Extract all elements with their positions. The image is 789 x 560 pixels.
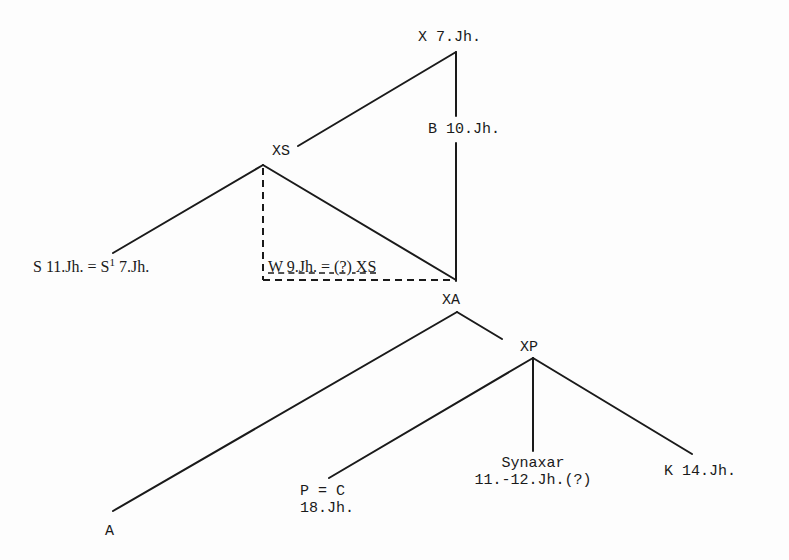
node-k: K 14.Jh.: [664, 463, 736, 480]
node-p-label: P = C: [300, 483, 354, 500]
stemma-diagram: X 7.Jh. B 10.Jh. XS S 11.Jh. = S1 7.Jh. …: [0, 0, 789, 560]
node-p-date: 18.Jh.: [300, 500, 354, 517]
edge-xp-k: [533, 358, 692, 454]
edge-xa-xp: [457, 312, 502, 339]
node-xp: XP: [520, 339, 538, 356]
node-xs: XS: [272, 143, 290, 160]
node-x: X 7.Jh.: [418, 29, 481, 46]
edge-xs-s: [113, 165, 263, 253]
node-xa: XA: [442, 292, 460, 309]
node-synaxar-label: Synaxar: [445, 455, 621, 472]
node-synaxar: Synaxar 11.-12.Jh.(?): [445, 455, 621, 489]
node-b: B 10.Jh.: [428, 121, 500, 138]
edge-xa-a: [113, 312, 457, 511]
node-s-date: 7.Jh.: [115, 258, 149, 275]
node-p: P = C 18.Jh.: [300, 483, 354, 517]
node-a: A: [105, 523, 114, 540]
node-s-label: S 11.Jh. = S: [33, 258, 109, 275]
node-synaxar-date: 11.-12.Jh.(?): [445, 472, 621, 489]
node-s: S 11.Jh. = S1 7.Jh.: [33, 258, 149, 275]
node-w: W 9.Jh. = (?) XS: [268, 258, 376, 275]
